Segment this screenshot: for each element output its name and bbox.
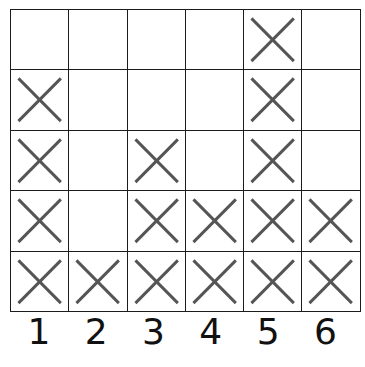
x-mark-icon xyxy=(302,191,359,250)
x-mark-icon xyxy=(186,191,243,250)
pictograph-cell[interactable] xyxy=(185,251,243,311)
pictograph-row xyxy=(11,251,361,311)
x-mark-icon xyxy=(302,252,359,311)
pictograph-cell[interactable] xyxy=(302,251,360,311)
pictograph-cell[interactable] xyxy=(11,191,69,251)
pictograph-cell[interactable] xyxy=(244,70,302,130)
pictograph-cell[interactable] xyxy=(244,191,302,251)
pictograph-cell[interactable] xyxy=(69,251,127,311)
pictograph-cell[interactable] xyxy=(302,10,360,70)
x-mark-icon xyxy=(244,10,301,69)
pictograph-cell[interactable] xyxy=(127,70,185,130)
pictograph-cell[interactable] xyxy=(11,251,69,311)
x-mark-icon xyxy=(11,252,68,311)
pictograph-cell[interactable] xyxy=(127,130,185,190)
x-axis-tick-label-2: 2 xyxy=(67,309,124,361)
x-axis-tick-labels: 1 2 3 4 5 6 xyxy=(10,309,354,361)
x-axis-tick-label-5: 5 xyxy=(239,309,296,361)
pictograph-cell[interactable] xyxy=(185,70,243,130)
x-mark-icon xyxy=(11,191,68,250)
pictograph-cell[interactable] xyxy=(69,70,127,130)
pictograph-chart: 1 2 3 4 5 6 xyxy=(0,0,365,367)
x-axis-tick-label-3: 3 xyxy=(125,309,182,361)
x-mark-icon xyxy=(11,70,68,129)
pictograph-cell[interactable] xyxy=(11,130,69,190)
pictograph-grid-body xyxy=(11,10,361,312)
pictograph-cell[interactable] xyxy=(69,130,127,190)
x-mark-icon xyxy=(244,252,301,311)
pictograph-cell[interactable] xyxy=(69,10,127,70)
x-axis-tick-label-4: 4 xyxy=(182,309,239,361)
pictograph-cell[interactable] xyxy=(244,10,302,70)
pictograph-row xyxy=(11,10,361,70)
pictograph-cell[interactable] xyxy=(127,10,185,70)
pictograph-cell[interactable] xyxy=(11,70,69,130)
x-mark-icon xyxy=(186,252,243,311)
x-mark-icon xyxy=(128,191,185,250)
pictograph-cell[interactable] xyxy=(185,10,243,70)
pictograph-row xyxy=(11,70,361,130)
pictograph-cell[interactable] xyxy=(127,191,185,251)
x-mark-icon xyxy=(244,191,301,250)
pictograph-cell[interactable] xyxy=(185,130,243,190)
x-mark-icon xyxy=(244,70,301,129)
pictograph-cell[interactable] xyxy=(185,191,243,251)
pictograph-cell[interactable] xyxy=(302,130,360,190)
x-mark-icon xyxy=(128,131,185,190)
pictograph-cell[interactable] xyxy=(127,251,185,311)
pictograph-row xyxy=(11,130,361,190)
pictograph-cell[interactable] xyxy=(244,251,302,311)
pictograph-cell[interactable] xyxy=(11,10,69,70)
x-axis-tick-label-6: 6 xyxy=(296,309,353,361)
pictograph-cell[interactable] xyxy=(302,70,360,130)
pictograph-cell[interactable] xyxy=(302,191,360,251)
pictograph-cell[interactable] xyxy=(69,191,127,251)
pictograph-grid xyxy=(10,9,361,312)
pictograph-cell[interactable] xyxy=(244,130,302,190)
x-axis-tick-label-1: 1 xyxy=(10,309,67,361)
x-mark-icon xyxy=(69,252,126,311)
x-mark-icon xyxy=(128,252,185,311)
x-mark-icon xyxy=(11,131,68,190)
pictograph-row xyxy=(11,191,361,251)
x-mark-icon xyxy=(244,131,301,190)
pictograph-grid-wrapper xyxy=(10,9,354,306)
